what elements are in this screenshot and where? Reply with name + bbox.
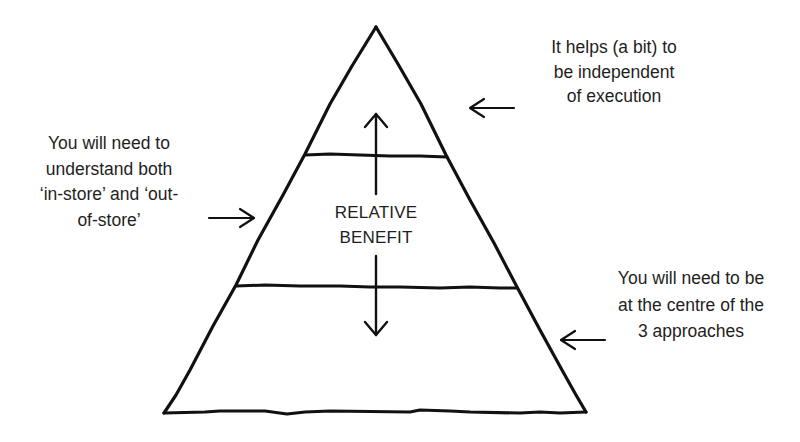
- relative-benefit-label: RELATIVE BENEFIT: [316, 200, 436, 250]
- center-label-line: RELATIVE: [316, 200, 436, 225]
- annotation-line: of-store’: [14, 208, 204, 234]
- annotation-top-tier: It helps (a bit) to be independent of ex…: [524, 35, 704, 109]
- annotation-bottom-tier: You will need to be at the centre of the…: [596, 265, 786, 345]
- annotation-line: of execution: [524, 84, 704, 109]
- pointer-arrow-left: [209, 209, 254, 227]
- pyramid-diagram: RELATIVE BENEFIT It helps (a bit) to be …: [0, 0, 800, 442]
- annotation-line: It helps (a bit) to: [524, 35, 704, 60]
- pyramid-base: [164, 410, 586, 414]
- annotation-line: You will need to: [14, 131, 204, 157]
- annotation-line: be independent: [524, 60, 704, 85]
- pointer-arrow-top-right: [470, 99, 514, 117]
- annotation-line: ‘in-store’ and ‘out-: [14, 182, 204, 208]
- annotation-line: You will need to be: [596, 265, 786, 292]
- annotation-line: understand both: [14, 157, 204, 183]
- annotation-line: at the centre of the: [596, 292, 786, 319]
- annotation-line: 3 approaches: [596, 318, 786, 345]
- center-label-line: BENEFIT: [316, 225, 436, 250]
- annotation-middle-tier: You will need to understand both ‘in-sto…: [14, 131, 204, 234]
